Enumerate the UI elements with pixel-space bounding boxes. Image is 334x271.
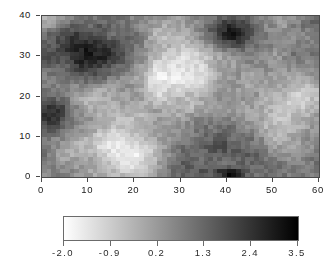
x-tick-label: 50 [252,185,292,195]
colorbar-tick-label: 0.2 [132,247,182,258]
x-tick-mark [318,178,319,182]
x-tick-mark [87,178,88,182]
x-tick-label: 30 [160,185,200,195]
figure-root: 0102030405060 010203040 -2.0-0.90.21.32.… [0,0,334,271]
colorbar-tick-mark [157,241,158,246]
x-tick-mark [226,178,227,182]
y-tick-mark [36,96,40,97]
heatmap-image [42,16,319,177]
y-tick-label: 40 [3,10,31,20]
y-tick-mark [36,15,40,16]
colorbar-tick-mark [297,241,298,246]
y-tick-mark [36,55,40,56]
colorbar-tick-mark [203,241,204,246]
colorbar-tick-label: 3.5 [272,247,322,258]
x-tick-label: 40 [206,185,246,195]
y-tick-label: 0 [3,171,31,181]
x-tick-mark [133,178,134,182]
colorbar-tick-label: -2.0 [38,247,88,258]
x-tick-label: 20 [113,185,153,195]
colorbar: -2.0-0.90.21.32.43.5 [63,216,299,241]
y-tick-label: 20 [3,91,31,101]
colorbar-gradient [64,217,298,240]
x-tick-label: 10 [67,185,107,195]
x-tick-mark [180,178,181,182]
y-tick-mark [36,176,40,177]
x-tick-label: 60 [298,185,334,195]
colorbar-tick-mark [110,241,111,246]
x-tick-mark [272,178,273,182]
colorbar-tick-label: 1.3 [178,247,228,258]
x-tick-mark [41,178,42,182]
colorbar-tick-mark [250,241,251,246]
y-tick-label: 10 [3,131,31,141]
y-tick-mark [36,136,40,137]
colorbar-tick-label: -0.9 [85,247,135,258]
colorbar-box [63,216,299,241]
colorbar-tick-label: 2.4 [225,247,275,258]
colorbar-tick-mark [63,241,64,246]
x-tick-label: 0 [21,185,61,195]
y-tick-label: 30 [3,50,31,60]
heatmap-plot-area [41,15,320,178]
